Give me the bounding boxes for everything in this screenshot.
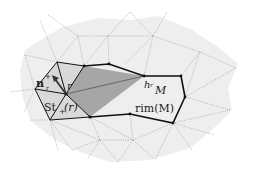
diagram-figure: n r + r St + (r) h r M rim(M) xyxy=(0,0,253,174)
star-label: St xyxy=(44,101,57,114)
normal-label-sup: + xyxy=(45,73,51,81)
normal-label-sub: r xyxy=(46,84,49,91)
star-label-arg: (r) xyxy=(64,101,78,114)
manifold-label: M xyxy=(154,84,167,97)
rim-label: rim(M) xyxy=(135,102,174,115)
normal-label: n xyxy=(36,77,44,90)
